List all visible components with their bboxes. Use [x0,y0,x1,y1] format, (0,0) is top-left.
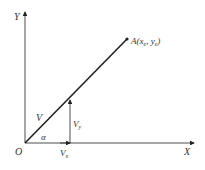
y-axis-label: Y [14,11,21,22]
point-a-label: A(xe, ye) [130,36,160,47]
vx-label: Vx [60,148,69,159]
origin-label: O [15,146,22,157]
angle-alpha-label: α [41,132,46,142]
vy-label: Vy [73,119,82,130]
velocity-decomposition-diagram: Y X O A(xe, ye) V α Vy Vx [0,0,205,170]
x-axis-label: X [183,146,191,157]
vector-v-label: V [36,112,44,123]
point-a-dot [125,37,128,40]
